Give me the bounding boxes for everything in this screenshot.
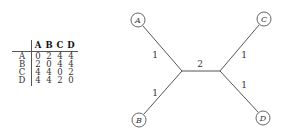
edge-b-u <box>144 71 182 114</box>
edge-label-c-v: 1 <box>241 50 247 60</box>
edge-label-a-u: 1 <box>152 50 158 60</box>
edge-label-d-v: 1 <box>241 80 247 90</box>
phylogenetic-tree: A B C D 1 1 2 1 1 <box>0 0 289 132</box>
edge-label-u-v: 2 <box>197 59 203 69</box>
edge-label-b-u: 1 <box>152 88 158 98</box>
node-label-b: B <box>135 116 142 125</box>
edge-d-v <box>220 71 258 112</box>
node-label-c: C <box>261 15 267 24</box>
edge-c-v <box>220 25 259 71</box>
node-label-a: A <box>134 16 141 25</box>
node-label-d: D <box>259 114 267 123</box>
edge-a-u <box>143 26 182 71</box>
